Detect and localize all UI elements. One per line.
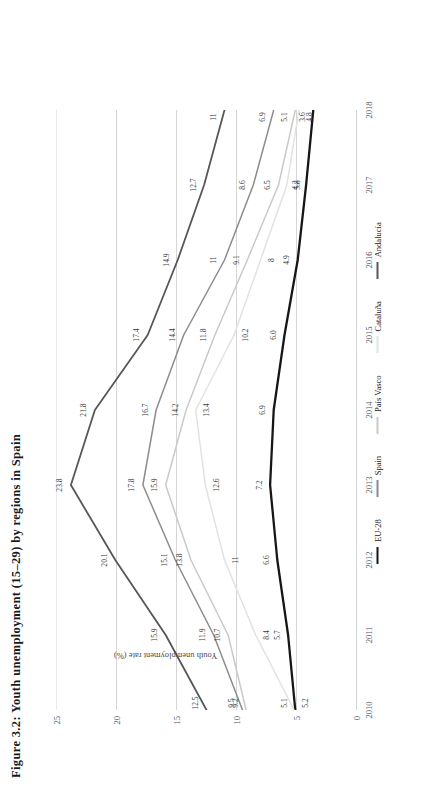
x-tick-label: 2011 xyxy=(363,627,373,644)
series-line[interactable] xyxy=(270,110,313,710)
legend-label: País Vasco xyxy=(372,376,382,412)
legend-label: Spain xyxy=(372,456,382,475)
legend-swatch-icon xyxy=(376,337,378,354)
series-line[interactable] xyxy=(142,110,273,710)
y-tick-label: 20 xyxy=(111,716,121,725)
legend-item[interactable]: EU-28 xyxy=(372,519,382,564)
x-tick-label: 2012 xyxy=(363,552,373,569)
x-tick-label: 2015 xyxy=(363,327,373,344)
figure: Figure 3.2: Youth unemployment (15–29) b… xyxy=(0,0,433,788)
legend-item[interactable]: Cataluña xyxy=(372,301,382,353)
y-tick-label: 25 xyxy=(51,716,61,725)
y-tick-label: 5 xyxy=(291,716,301,720)
legend-label: Andalucía xyxy=(372,222,382,257)
x-tick-label: 2018 xyxy=(363,102,373,119)
legend-label: EU-28 xyxy=(372,519,382,542)
legend-swatch-icon xyxy=(376,547,378,564)
legend-label: Cataluña xyxy=(372,301,382,331)
chart-canvas xyxy=(56,110,356,710)
chart-legend: EU-28SpainPaís VascoCataluñaAndalucía xyxy=(372,222,382,564)
x-tick-label: 2017 xyxy=(363,177,373,194)
legend-swatch-icon xyxy=(376,262,378,279)
legend-item[interactable]: País Vasco xyxy=(372,376,382,434)
plot-area: Youth unemployment rate (%) 051015202520… xyxy=(56,110,356,710)
series-line[interactable] xyxy=(165,110,295,710)
y-tick-label: 15 xyxy=(171,716,181,725)
legend-swatch-icon xyxy=(376,417,378,434)
legend-item[interactable]: Andalucía xyxy=(372,222,382,279)
x-tick-label: 2013 xyxy=(363,477,373,494)
legend-swatch-icon xyxy=(376,480,378,497)
legend-item[interactable]: Spain xyxy=(372,456,382,497)
series-line[interactable] xyxy=(70,110,224,710)
figure-title: Figure 3.2: Youth unemployment (15–29) b… xyxy=(8,434,23,778)
y-axis-title: Youth unemployment rate (%) xyxy=(75,651,255,661)
x-tick-label: 2016 xyxy=(363,252,373,269)
figure-rotator: Figure 3.2: Youth unemployment (15–29) b… xyxy=(0,0,433,788)
x-tick-label: 2010 xyxy=(363,702,373,719)
x-tick-label: 2014 xyxy=(363,402,373,419)
y-tick-label: 0 xyxy=(351,716,361,720)
y-tick-label: 10 xyxy=(231,716,241,725)
